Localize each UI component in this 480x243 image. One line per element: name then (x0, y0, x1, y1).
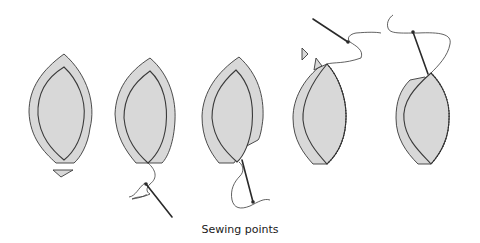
thread (387, 15, 450, 73)
notch-triangle-loose (302, 48, 308, 60)
step-3-petal (202, 57, 270, 208)
needle-eye (251, 200, 255, 204)
step-4-petal (293, 19, 381, 164)
step-5-petal (387, 15, 450, 164)
step-2-petal (115, 58, 175, 217)
notch-triangle (53, 170, 73, 177)
step-1-petal (29, 54, 92, 177)
needle (313, 19, 348, 42)
sewing-diagram (0, 0, 480, 243)
needle (242, 160, 253, 202)
needle (146, 184, 172, 217)
needle (413, 32, 428, 74)
thread (327, 32, 381, 64)
needle-eye (144, 182, 148, 186)
thread (231, 162, 270, 208)
thread-tail (129, 183, 145, 197)
needle-eye (411, 30, 415, 34)
caption: Sewing points (0, 223, 480, 236)
needle-eye (346, 40, 350, 44)
